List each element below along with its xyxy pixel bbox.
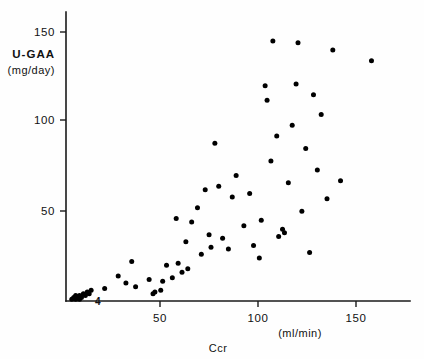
data-point — [251, 243, 256, 248]
data-point — [129, 259, 134, 264]
data-point — [209, 245, 214, 250]
data-point — [369, 58, 374, 63]
data-point — [116, 273, 121, 278]
data-point — [195, 205, 200, 210]
data-point — [183, 239, 188, 244]
y-axis-unit: (mg/day) — [8, 64, 55, 76]
data-point — [220, 236, 225, 241]
data-point — [123, 281, 128, 286]
data-point — [89, 288, 94, 293]
data-point — [234, 173, 239, 178]
data-point — [152, 290, 157, 295]
x-axis-title: Ccr — [209, 342, 228, 354]
data-point — [270, 38, 275, 43]
data-point — [189, 220, 194, 225]
data-point — [263, 83, 268, 88]
y-axis-title: U-GAA — [12, 48, 55, 60]
data-point — [176, 261, 181, 266]
data-point — [241, 223, 246, 228]
data-point — [212, 141, 217, 146]
data-point — [180, 270, 185, 275]
scatter-plot-figure: 150 100 50 50 100 150 U-GAA (mg/day) (ml… — [0, 0, 424, 359]
data-point — [307, 250, 312, 255]
data-point — [338, 178, 343, 183]
data-point — [133, 284, 138, 289]
data-point — [315, 168, 320, 173]
data-point — [268, 159, 273, 164]
data-point — [311, 92, 316, 97]
data-point — [330, 47, 335, 52]
data-point — [319, 112, 324, 117]
data-point — [226, 246, 231, 251]
plot-canvas: 150 100 50 50 100 150 U-GAA (mg/day) (ml… — [0, 0, 424, 359]
cluster-count-annotation: 4 — [95, 296, 101, 307]
data-point — [174, 216, 179, 221]
data-point — [216, 184, 221, 189]
y-tick-label-50: 50 — [41, 205, 55, 217]
data-point — [274, 134, 279, 139]
data-point — [257, 255, 262, 260]
data-point — [303, 146, 308, 151]
data-point — [282, 230, 287, 235]
data-point — [325, 196, 330, 201]
data-point — [199, 252, 204, 257]
data-point — [259, 218, 264, 223]
x-tick-label-150: 150 — [346, 312, 367, 324]
data-point — [158, 288, 163, 293]
data-point — [164, 263, 169, 268]
data-point — [290, 123, 295, 128]
data-point — [102, 286, 107, 291]
data-point — [170, 275, 175, 280]
data-point — [230, 194, 235, 199]
data-point — [147, 277, 152, 282]
x-tick-label-100: 100 — [248, 312, 269, 324]
x-axis-unit: (ml/min) — [278, 327, 322, 339]
data-point — [265, 98, 270, 103]
data-point — [203, 187, 208, 192]
data-point — [296, 40, 301, 45]
data-point — [286, 180, 291, 185]
data-point — [299, 209, 304, 214]
y-tick-label-100: 100 — [34, 114, 55, 126]
data-point — [207, 232, 212, 237]
data-point — [247, 191, 252, 196]
data-point — [160, 279, 165, 284]
x-tick-label-50: 50 — [153, 312, 167, 324]
data-points-group — [69, 38, 374, 301]
data-point — [276, 234, 281, 239]
y-tick-label-150: 150 — [34, 26, 55, 38]
data-point — [294, 82, 299, 87]
data-point — [185, 266, 190, 271]
